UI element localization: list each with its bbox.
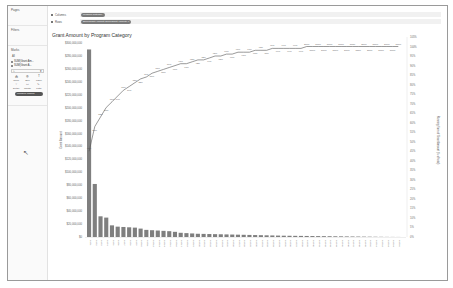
x-axis-label: Cat 11 [147, 240, 149, 247]
bar[interactable] [316, 236, 320, 237]
line-point-label: 97% [247, 48, 251, 50]
line-point-label: 79% [127, 89, 131, 91]
label-button[interactable]: TLabel [34, 75, 44, 82]
bar[interactable] [167, 231, 171, 237]
rows-shelf-bg[interactable] [80, 19, 441, 24]
x-axis-label: Cat 21 [204, 240, 206, 247]
line-point-label: 100% [390, 49, 396, 51]
y-axis-tick: $280,000,000 [65, 54, 83, 58]
x-axis-label: Cat 39 [307, 240, 309, 247]
marks-card: Marks All SUM(Grant Am... SUM(Grant A...… [8, 46, 47, 106]
bar[interactable] [265, 235, 269, 237]
bar[interactable] [230, 235, 234, 237]
bar[interactable] [299, 236, 303, 237]
x-axis-label: Cat 41 [319, 240, 321, 247]
worksheet-frame: Pages Filters Marks All SUM(Grant Am... … [7, 5, 448, 281]
pages-card[interactable]: Pages [8, 6, 47, 26]
bar[interactable] [104, 218, 108, 237]
bar[interactable] [127, 227, 131, 237]
x-axis-label: Cat 17 [181, 240, 183, 247]
bar[interactable] [110, 225, 114, 237]
bar[interactable] [190, 233, 194, 237]
y-axis-tick: $100,000,000 [65, 170, 83, 174]
bar[interactable] [179, 233, 183, 237]
marks-title: Marks [11, 48, 44, 52]
x-axis-label: Cat 50 [370, 240, 372, 247]
columns-pill[interactable]: Program Category [81, 13, 105, 17]
bar[interactable] [270, 235, 274, 237]
bar[interactable] [202, 234, 206, 237]
line-point-label: 100% [327, 43, 333, 45]
bar[interactable] [93, 184, 97, 237]
x-axis-label: Cat 48 [359, 240, 361, 247]
y-axis-tick: $20,000,000 [66, 222, 82, 226]
bar[interactable] [276, 236, 280, 237]
bar[interactable] [207, 234, 211, 237]
bar[interactable] [253, 235, 257, 237]
caret-icon [11, 61, 13, 63]
bar[interactable] [293, 236, 297, 237]
bar[interactable] [133, 228, 137, 237]
bar[interactable] [247, 235, 251, 237]
bar[interactable] [282, 236, 286, 237]
bar[interactable] [224, 234, 228, 237]
bar[interactable] [322, 236, 326, 237]
x-axis-label: Cat 52 [382, 240, 384, 247]
bar[interactable] [236, 235, 240, 237]
line-point-label: 96% [224, 50, 228, 52]
bar[interactable] [121, 227, 125, 237]
rows-label: Rows [55, 20, 71, 24]
bar[interactable] [150, 230, 154, 237]
line-point-label: 100% [396, 43, 402, 45]
line-point-label: 100% [367, 49, 373, 51]
x-axis-label: Cat 54 [393, 240, 395, 247]
bar[interactable] [350, 236, 354, 237]
detail-button[interactable]: ⁘Detail [11, 83, 21, 90]
bar[interactable] [219, 234, 223, 237]
line-point-label: 68% [104, 109, 108, 111]
tooltip-button[interactable]: ▭Tooltip [22, 83, 32, 90]
filters-card[interactable]: Filters [8, 26, 47, 46]
bar[interactable] [184, 233, 188, 237]
size-button[interactable]: ◍Size [22, 75, 32, 82]
rows-shelf: Rows SUM(Grant Amount) SUM(Grant Amount)… [51, 19, 131, 24]
bar[interactable] [161, 231, 165, 237]
bar[interactable] [310, 236, 314, 237]
bar[interactable] [213, 234, 217, 237]
color-button[interactable]: ⁂Color [11, 75, 21, 82]
x-axis-label: Cat 2 [96, 240, 98, 246]
mark-type-dropdown[interactable]: ⌁▾ [11, 69, 44, 73]
path-button[interactable]: ∿Path [34, 83, 44, 90]
bar[interactable] [328, 236, 332, 237]
bar[interactable] [333, 236, 337, 237]
y-axis-title: Grant Amount [59, 131, 63, 148]
line-point-label: 97% [242, 54, 246, 56]
measure-names-pill[interactable]: Measure Names [15, 92, 43, 96]
x-axis-label: Cat 5 [113, 240, 115, 246]
bar[interactable] [87, 49, 91, 237]
rows-pill[interactable]: SUM(Grant Amount) SUM(Grant Amount) Δ [81, 20, 131, 24]
bar[interactable] [144, 230, 148, 237]
mark-field-2[interactable]: SUM(Grant A... [11, 64, 44, 67]
bar[interactable] [116, 227, 120, 237]
x-axis-label: Cat 37 [296, 240, 298, 247]
line-point-label: 94% [207, 60, 211, 62]
y2-axis-tick: 15% [410, 206, 416, 210]
bar[interactable] [259, 235, 263, 237]
bar[interactable] [173, 232, 177, 237]
bar[interactable] [98, 216, 102, 237]
bar[interactable] [339, 236, 343, 237]
mark-type-all[interactable]: All [12, 55, 44, 58]
bar[interactable] [156, 231, 160, 237]
bar[interactable] [139, 229, 143, 237]
y2-axis-tick: 105% [410, 35, 417, 39]
y2-axis-tick: 30% [410, 178, 416, 182]
bar[interactable] [345, 236, 349, 237]
bar[interactable] [242, 235, 246, 237]
y-axis-tick: $180,000,000 [65, 119, 83, 123]
columns-shelf-bg[interactable] [80, 12, 441, 17]
bar[interactable] [305, 236, 309, 237]
mark-field-1[interactable]: SUM(Grant Am... [11, 60, 44, 63]
bar[interactable] [196, 234, 200, 237]
bar[interactable] [287, 236, 291, 237]
